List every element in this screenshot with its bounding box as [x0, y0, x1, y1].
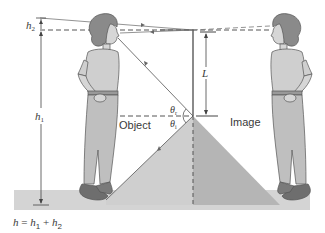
arrow-up-icon	[39, 31, 43, 36]
label-h2: h2	[26, 19, 36, 33]
ray-eye-to-mirror	[118, 38, 193, 116]
image-eye-line	[193, 26, 270, 30]
label-theta-i: θi	[170, 118, 177, 130]
pants	[272, 95, 306, 184]
arrow-up-icon	[39, 20, 43, 24]
person-image	[271, 14, 312, 200]
arrow-up-icon	[204, 33, 208, 38]
arrow-down-icon	[204, 110, 208, 115]
pants	[84, 95, 118, 184]
label-image: Image	[230, 116, 261, 128]
angle-arc-incidence	[183, 116, 186, 123]
label-theta-r: θr	[170, 104, 177, 116]
angle-arc-reflection	[183, 109, 186, 116]
label-L: L	[201, 67, 208, 79]
label-object: Object	[119, 119, 151, 131]
height-formula: h = h1 + h2	[13, 216, 62, 231]
ray-arrow-icon	[150, 30, 154, 34]
mirror-diagram: L h2 h1 θr θi Object Image	[0, 0, 325, 233]
person-object	[78, 14, 119, 200]
